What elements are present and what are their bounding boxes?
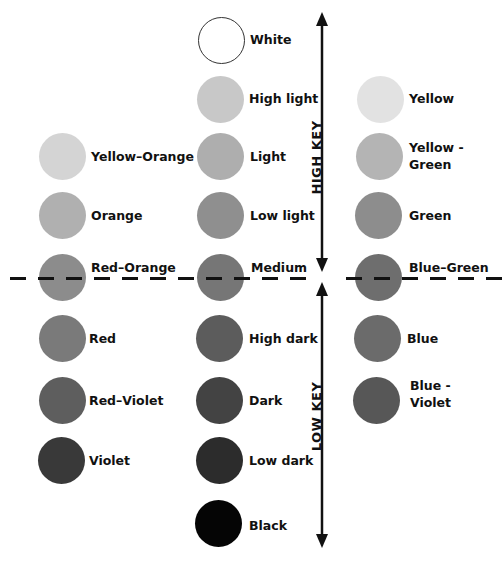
dash-segment [122, 277, 138, 280]
label-blue-green: Blue–Green [409, 260, 489, 276]
dash-segment [374, 277, 390, 280]
label-orange: Orange [91, 208, 143, 224]
dash-segment [38, 277, 54, 280]
swatch-green [355, 192, 402, 239]
label-red-orange: Red–Orange [91, 260, 176, 276]
label-high-dark: High dark [249, 331, 318, 347]
swatch-white [198, 17, 245, 64]
dash-segment [234, 277, 250, 280]
dash-segment [346, 277, 362, 280]
label-black: Black [249, 518, 287, 534]
dash-segment [66, 277, 82, 280]
swatch-blue-violet [353, 377, 400, 424]
label-low-dark: Low dark [249, 453, 313, 469]
arrow-down-icon [316, 534, 328, 548]
label-green: Green [409, 208, 451, 224]
label-high-light: High light [249, 91, 318, 107]
label-blue-violet-1: Blue - [410, 378, 451, 394]
swatch-dark [196, 377, 243, 424]
swatch-red [39, 315, 86, 362]
swatch-low-light [197, 192, 244, 239]
label-light: Light [250, 149, 286, 165]
swatch-yellow [357, 76, 404, 123]
label-red: Red [89, 331, 116, 347]
label-red-violet: Red–Violet [89, 393, 163, 409]
label-yellow-green-1: Yellow - [409, 140, 464, 156]
swatch-yellow-orange [39, 133, 86, 180]
swatch-low-dark [196, 437, 243, 484]
arrow-up-icon [316, 282, 328, 296]
swatch-yellow-green [356, 133, 403, 180]
dash-segment [262, 277, 278, 280]
dash-segment [290, 277, 306, 280]
dash-segment [150, 277, 166, 280]
label-yellow-green-2: Green [409, 157, 451, 173]
swatch-high-dark [196, 315, 243, 362]
dash-segment [206, 277, 222, 280]
swatch-red-violet [39, 377, 86, 424]
swatch-orange [39, 192, 86, 239]
arrow-up-icon [316, 12, 328, 26]
label-yellow-orange: Yellow–Orange [91, 149, 194, 165]
swatch-light [197, 133, 244, 180]
swatch-violet [38, 437, 85, 484]
arrow-down-icon [316, 258, 328, 272]
swatch-high-light [197, 76, 244, 123]
label-blue: Blue [407, 331, 438, 347]
dash-segment [430, 277, 446, 280]
label-violet: Violet [89, 453, 130, 469]
label-low-light: Low light [250, 208, 315, 224]
high-key-label: HIGH KEY [309, 118, 324, 198]
label-yellow: Yellow [409, 91, 454, 107]
dash-segment [458, 277, 474, 280]
dash-segment [178, 277, 194, 280]
dash-segment [94, 277, 110, 280]
swatch-black [195, 500, 242, 547]
label-medium: Medium [251, 260, 307, 276]
swatch-blue [354, 315, 401, 362]
low-key-label: LOW KEY [309, 377, 324, 457]
label-dark: Dark [249, 393, 282, 409]
label-white: White [250, 32, 291, 48]
dash-segment [10, 277, 26, 280]
dash-segment [402, 277, 418, 280]
label-blue-violet-2: Violet [410, 395, 451, 411]
dash-segment [486, 277, 502, 280]
